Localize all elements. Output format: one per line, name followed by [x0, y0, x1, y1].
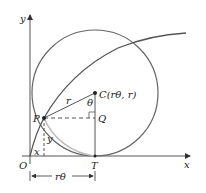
point-c-label: C(rθ, r) [99, 89, 136, 100]
point-t-label: T [91, 160, 99, 171]
x-axis-label: x [184, 159, 190, 170]
y-coord-label: y [46, 133, 53, 144]
y-axis-label: y [19, 13, 26, 24]
x-coord-label: x [34, 146, 40, 157]
point-t [94, 155, 97, 158]
point-p-label: P [32, 113, 40, 124]
point-p [42, 116, 46, 120]
angle-label: θ [87, 97, 93, 108]
right-angle-mark [89, 112, 95, 118]
point-c [93, 91, 97, 95]
origin-label: O [19, 160, 27, 171]
cycloid-diagram: y x O P C(rθ, r) Q T r θ x y rθ [0, 0, 206, 193]
arc-length-label: rθ [55, 171, 66, 182]
point-q-label: Q [98, 113, 106, 124]
